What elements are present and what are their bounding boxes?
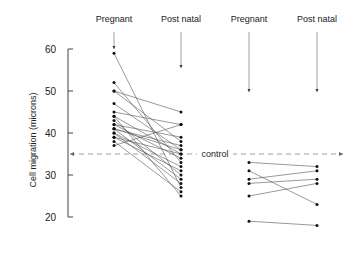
- data-point: [113, 123, 116, 126]
- data-point: [180, 148, 183, 151]
- paired-line: [114, 125, 181, 159]
- data-point: [248, 161, 251, 164]
- data-point: [113, 115, 116, 118]
- y-tick-label: 40: [45, 128, 57, 139]
- data-point: [316, 165, 319, 168]
- data-point: [180, 165, 183, 168]
- data-point: [113, 102, 116, 105]
- data-point: [113, 111, 116, 114]
- data-point: [113, 119, 116, 122]
- arrow-head-icon: [180, 65, 183, 68]
- svg-text:Cell migration (microns): Cell migration (microns): [28, 92, 38, 187]
- data-point: [180, 182, 183, 185]
- paired-line: [249, 183, 317, 196]
- data-point: [113, 90, 116, 93]
- paired-line: [114, 91, 181, 141]
- arrow-head-icon: [248, 89, 251, 92]
- data-point: [180, 140, 183, 143]
- data-point: [180, 144, 183, 147]
- paired-line: [114, 133, 181, 183]
- data-point: [180, 136, 183, 139]
- data-point: [180, 169, 183, 172]
- data-point: [180, 161, 183, 164]
- data-point: [180, 186, 183, 189]
- control-reference-line: control: [70, 148, 343, 159]
- data-point: [113, 127, 116, 130]
- data-point: [113, 52, 116, 55]
- paired-line: [249, 179, 317, 183]
- data-point: [113, 140, 116, 143]
- control-label: control: [201, 149, 228, 159]
- category-labels: PregnantPost natalPregnantPost natal: [96, 14, 337, 92]
- data-lines: [113, 52, 319, 227]
- arrow-head-icon: [316, 89, 319, 92]
- data-point: [180, 174, 183, 177]
- paired-line: [114, 53, 181, 187]
- data-point: [248, 178, 251, 181]
- data-point: [248, 182, 251, 185]
- data-point: [316, 182, 319, 185]
- data-point: [316, 203, 319, 206]
- paired-line: [114, 137, 181, 154]
- data-point: [316, 178, 319, 181]
- data-point: [113, 136, 116, 139]
- data-point: [113, 132, 116, 135]
- y-tick-label: 20: [45, 212, 57, 223]
- y-axis: 2030405060: [45, 44, 73, 223]
- paired-line: [249, 171, 317, 179]
- data-point: [180, 157, 183, 160]
- y-axis-label: Cell migration (microns): [28, 92, 38, 187]
- category-label: Post natal: [161, 14, 201, 24]
- data-point: [180, 178, 183, 181]
- data-point: [248, 195, 251, 198]
- arrow-left-icon: [70, 152, 74, 156]
- arrow-right-icon: [339, 152, 343, 156]
- paired-line: [114, 129, 181, 150]
- data-point: [180, 111, 183, 114]
- paired-line: [249, 162, 317, 166]
- data-point: [180, 195, 183, 198]
- arrow-head-icon: [113, 46, 116, 49]
- data-point: [180, 153, 183, 156]
- y-tick-label: 30: [45, 170, 57, 181]
- paired-line-chart: 2030405060 Cell migration (microns) Preg…: [0, 0, 354, 257]
- category-label: Post natal: [297, 14, 337, 24]
- data-point: [316, 169, 319, 172]
- data-point: [113, 81, 116, 84]
- y-tick-label: 60: [45, 44, 57, 55]
- paired-line: [114, 91, 181, 112]
- data-point: [180, 123, 183, 126]
- paired-line: [114, 133, 181, 167]
- category-label: Pregnant: [231, 14, 268, 24]
- paired-line: [249, 221, 317, 225]
- data-point: [316, 224, 319, 227]
- paired-line: [114, 116, 181, 196]
- paired-line: [114, 129, 181, 146]
- data-point: [180, 190, 183, 193]
- data-point: [248, 169, 251, 172]
- y-tick-label: 50: [45, 86, 57, 97]
- data-point: [113, 144, 116, 147]
- category-label: Pregnant: [96, 14, 133, 24]
- paired-line: [249, 171, 317, 205]
- data-point: [248, 220, 251, 223]
